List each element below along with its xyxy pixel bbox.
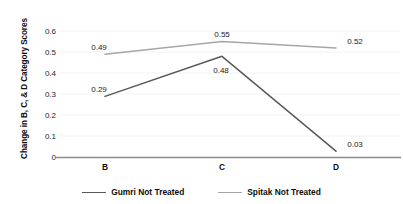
data-label-spitak-d: 0.52 <box>338 37 372 46</box>
legend-item-spitak-not-treated: Spitak Not Treated <box>218 187 321 197</box>
legend-swatch-gumri-icon <box>82 192 106 193</box>
data-label-spitak-c: 0.55 <box>205 30 239 39</box>
data-label-gumri-c: 0.48 <box>204 66 238 75</box>
data-label-spitak-b: 0.49 <box>82 43 116 52</box>
line-chart: Change in B, C, & D Category Scores 0.6 … <box>0 0 403 204</box>
legend-label-spitak: Spitak Not Treated <box>247 187 321 197</box>
chart-legend: Gumri Not Treated Spitak Not Treated <box>0 184 403 200</box>
legend-label-gumri: Gumri Not Treated <box>111 187 184 197</box>
data-label-gumri-b: 0.29 <box>82 85 116 94</box>
x-tick-label-c: C <box>202 162 242 172</box>
legend-swatch-spitak-icon <box>218 192 242 193</box>
plot-area <box>0 0 403 204</box>
x-tick-label-b: B <box>85 162 125 172</box>
data-label-gumri-d: 0.03 <box>338 140 372 149</box>
legend-item-gumri-not-treated: Gumri Not Treated <box>82 187 184 197</box>
x-tick-label-d: D <box>316 162 356 172</box>
